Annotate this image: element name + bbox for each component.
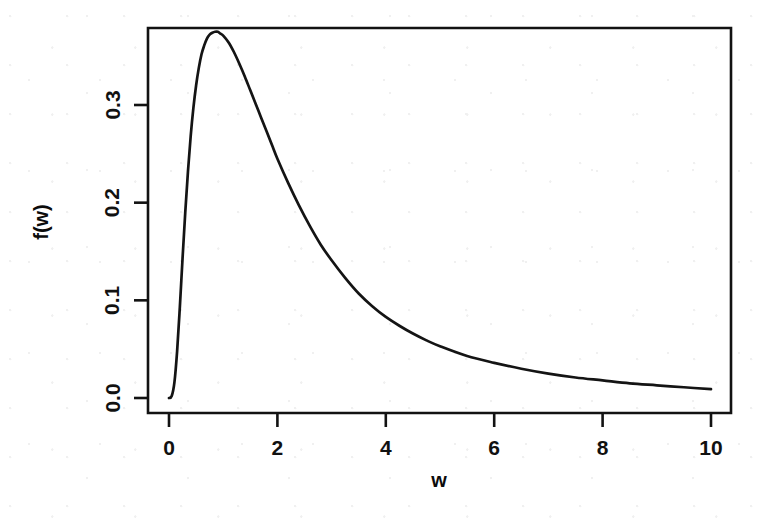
y-tick-label: 0.2 xyxy=(101,188,124,217)
y-tick-label: 0.1 xyxy=(101,285,124,315)
x-tick-label: 4 xyxy=(380,436,392,459)
x-tick-label: 0 xyxy=(163,436,175,459)
density-plot-figure: 0246810 0.00.10.20.3 w f(w) xyxy=(0,0,771,519)
x-tick-label: 2 xyxy=(272,436,284,459)
y-tick-label: 0.0 xyxy=(101,383,124,412)
plot-canvas: 0246810 0.00.10.20.3 w f(w) xyxy=(0,0,771,519)
x-axis-title: w xyxy=(430,469,447,491)
x-tick-label: 8 xyxy=(597,436,609,459)
x-tick-label: 10 xyxy=(699,436,722,459)
y-tick-label: 0.3 xyxy=(101,90,124,119)
x-tick-label: 6 xyxy=(488,436,500,459)
y-axis-title: f(w) xyxy=(30,204,52,240)
